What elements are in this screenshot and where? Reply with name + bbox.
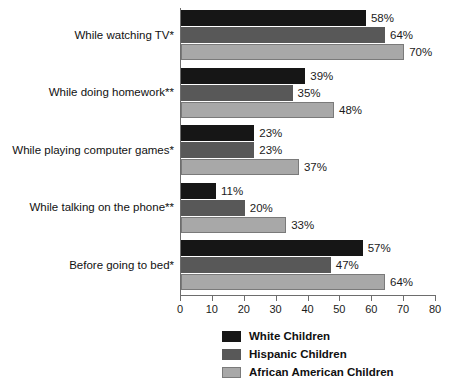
bar-value-label: 58%: [371, 10, 394, 26]
bar-value-label: 64%: [390, 274, 413, 290]
bar-value-label: 33%: [291, 217, 314, 233]
bar: [181, 102, 334, 118]
legend-item[interactable]: Hispanic Children: [222, 345, 394, 363]
x-axis-tick: [276, 296, 277, 301]
bar-value-label: 20%: [250, 200, 273, 216]
x-axis-tick-label: 80: [420, 303, 450, 315]
bar-group: 57%47%64%: [181, 240, 436, 291]
bar-value-label: 23%: [259, 125, 282, 141]
category-label: While talking on the phone**: [0, 201, 174, 214]
x-axis-tick: [435, 296, 436, 301]
bar-value-label: 37%: [304, 159, 327, 175]
bar: [181, 142, 254, 158]
bar: [181, 44, 404, 60]
bar-group: 23%23%37%: [181, 125, 436, 176]
bar: [181, 159, 299, 175]
legend-label: White Children: [249, 330, 330, 342]
x-axis-tick-label: 30: [261, 303, 291, 315]
bar: [181, 217, 286, 233]
x-axis-tick: [339, 296, 340, 301]
bar: [181, 68, 305, 84]
x-axis-tick: [308, 296, 309, 301]
x-axis-tick: [180, 296, 181, 301]
category-label: Before going to bed*: [0, 259, 174, 272]
x-axis-tick-label: 10: [197, 303, 227, 315]
legend-color-swatch: [222, 331, 241, 342]
bar-value-label: 35%: [298, 85, 321, 101]
bar-chart: 01020304050607080 58%64%70%39%35%48%23%2…: [0, 0, 456, 386]
x-axis-tick-label: 60: [356, 303, 386, 315]
category-label: While doing homework**: [0, 86, 174, 99]
bar: [181, 85, 293, 101]
legend-color-swatch: [222, 349, 241, 360]
bar: [181, 27, 385, 43]
legend-label: African American Children: [249, 366, 394, 378]
bar: [181, 274, 385, 290]
x-axis-tick: [244, 296, 245, 301]
x-axis-tick-label: 50: [324, 303, 354, 315]
x-axis-tick-label: 40: [293, 303, 323, 315]
legend-label: Hispanic Children: [249, 348, 347, 360]
category-label: While watching TV*: [0, 29, 174, 42]
bar-value-label: 23%: [259, 142, 282, 158]
legend-item[interactable]: White Children: [222, 327, 394, 345]
bar: [181, 10, 366, 26]
bar: [181, 125, 254, 141]
bar: [181, 200, 245, 216]
x-axis-tick-label: 0: [165, 303, 195, 315]
category-label: While playing computer games*: [0, 144, 174, 157]
chart-legend: White ChildrenHispanic ChildrenAfrican A…: [222, 327, 394, 381]
x-axis-tick: [212, 296, 213, 301]
bar: [181, 183, 216, 199]
bar-value-label: 64%: [390, 27, 413, 43]
bar-value-label: 70%: [409, 44, 432, 60]
bar-value-label: 57%: [368, 240, 391, 256]
x-axis-tick-label: 70: [388, 303, 418, 315]
bar-group: 11%20%33%: [181, 183, 436, 234]
bar: [181, 240, 363, 256]
legend-item[interactable]: African American Children: [222, 363, 394, 381]
bar-group: 58%64%70%: [181, 10, 436, 61]
bar: [181, 257, 331, 273]
plot-area: 01020304050607080 58%64%70%39%35%48%23%2…: [180, 8, 435, 295]
bar-value-label: 47%: [336, 257, 359, 273]
bar-group: 39%35%48%: [181, 68, 436, 119]
bar-value-label: 39%: [310, 68, 333, 84]
bar-value-label: 11%: [221, 183, 243, 199]
x-axis-tick-label: 20: [229, 303, 259, 315]
x-axis-tick: [403, 296, 404, 301]
x-axis-tick: [371, 296, 372, 301]
bar-value-label: 48%: [339, 102, 362, 118]
legend-color-swatch: [222, 367, 241, 378]
